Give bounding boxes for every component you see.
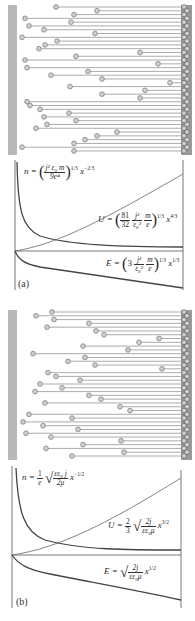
electron-icon <box>38 107 43 112</box>
electron-icon <box>83 137 88 142</box>
electron-icon <box>49 435 54 440</box>
electron-icon <box>70 416 75 421</box>
electron-icon <box>87 393 92 398</box>
U-curve <box>12 478 181 555</box>
electron-icon <box>143 88 148 93</box>
electron-icon <box>95 8 100 13</box>
electron-icon <box>100 77 105 82</box>
cathode-plate <box>8 310 17 460</box>
cathode-plate <box>8 5 17 155</box>
electron-icon <box>67 111 72 116</box>
electron-icon <box>45 325 50 330</box>
panel-a-particles <box>0 0 195 156</box>
electron-icon <box>182 454 187 459</box>
electron-icon <box>23 16 28 21</box>
electron-icon <box>99 397 104 402</box>
panel-label-b: (b) <box>16 596 28 607</box>
electron-icon <box>49 73 54 78</box>
electron-icon <box>138 96 143 101</box>
panel-a-plot: n = (j² ε₀ m9e⁴)1/3 x−2/3 U = (8132 j²ε₀… <box>0 156 195 296</box>
electron-icon <box>81 344 86 349</box>
electron-icon <box>45 122 50 127</box>
electron-icon <box>27 412 32 417</box>
electron-icon <box>43 401 48 406</box>
electron-icon <box>55 39 60 44</box>
electron-icon <box>34 126 39 131</box>
electron-icon <box>72 141 77 146</box>
electron-icon <box>27 24 32 29</box>
electron-icon <box>126 347 131 352</box>
electron-icon <box>74 118 79 123</box>
electron-icon <box>160 366 165 371</box>
electron-icon <box>69 20 74 25</box>
electron-icon <box>93 363 98 368</box>
electron-icon <box>122 450 127 455</box>
electron-icon <box>156 61 161 66</box>
formula-n-a: n = (j² ε₀ m9e⁴)1/3 x−2/3 <box>24 164 94 180</box>
electron-icon <box>60 385 65 390</box>
electron-icon <box>25 65 30 70</box>
electron-icon <box>182 149 187 154</box>
formula-E-a: E = (3 j²ε₀² me)1/3 x1/3 <box>106 256 179 272</box>
electron-icon <box>94 329 99 334</box>
electron-icon <box>76 427 81 432</box>
formula-U-a: U = (8132 j²ε₀² me)1/3 x4/3 <box>98 212 177 228</box>
electron-icon <box>42 114 47 119</box>
electron-icon <box>44 446 49 451</box>
electron-icon <box>50 310 55 315</box>
electron-icon <box>72 149 77 154</box>
electron-icon <box>46 370 51 375</box>
electron-icon <box>41 423 46 428</box>
electron-icon <box>54 374 59 379</box>
electron-icon <box>54 5 59 10</box>
electron-icon <box>119 438 124 443</box>
panel-label-a: (a) <box>18 278 29 289</box>
electron-icon <box>128 408 133 413</box>
electron-icon <box>102 332 107 337</box>
electron-icon <box>137 340 142 345</box>
electron-icon <box>66 359 71 364</box>
electron-icon <box>28 103 33 108</box>
electron-icon <box>74 54 79 59</box>
formula-E-b: E = √2jεε₀μ x1/2 <box>104 564 156 580</box>
electron-icon <box>78 378 83 383</box>
electron-icon <box>86 69 91 74</box>
electron-icon <box>87 321 92 326</box>
electron-icon <box>93 31 98 36</box>
particle-diagram-b <box>0 300 195 462</box>
electron-icon <box>72 12 77 17</box>
electron-icon <box>138 50 143 55</box>
electron-icon <box>23 58 28 63</box>
electron-icon <box>20 145 25 150</box>
electron-icon <box>70 454 75 459</box>
electron-icon <box>115 130 120 135</box>
electron-icon <box>168 80 173 85</box>
panel-b-particles <box>0 300 195 462</box>
electron-icon <box>38 382 43 387</box>
electron-icon <box>118 404 123 409</box>
electron-icon <box>95 133 100 138</box>
electron-icon <box>43 42 48 47</box>
panel-b-plot: n = 1e √εε₀ j2μ x−1/2 U = 23 √2jεε₀μ x3/… <box>0 462 195 621</box>
electron-icon <box>42 27 47 32</box>
particle-diagram-a <box>0 0 195 156</box>
electron-icon <box>31 351 36 356</box>
electron-icon <box>21 419 26 424</box>
electron-icon <box>83 355 88 360</box>
electron-icon <box>52 317 57 322</box>
electron-icon <box>68 84 73 89</box>
electron-icon <box>100 92 105 97</box>
electron-icon <box>34 313 39 318</box>
electron-icon <box>37 46 42 51</box>
electron-icon <box>81 442 86 447</box>
formula-n-b: n = 1e √εε₀ j2μ x−1/2 <box>22 470 84 486</box>
electron-icon <box>157 336 162 341</box>
electron-icon <box>24 431 29 436</box>
formula-U-b: U = 23 √2jεε₀μ x3/2 <box>108 518 169 534</box>
electron-icon <box>20 35 25 40</box>
electron-icon <box>33 389 38 394</box>
